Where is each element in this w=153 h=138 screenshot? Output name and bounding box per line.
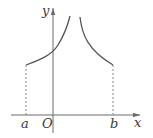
function-graph: y x O a b	[0, 0, 153, 138]
y-axis-label: y	[41, 3, 50, 18]
curve-right-branch	[80, 17, 113, 65]
x-axis-label: x	[134, 115, 142, 130]
a-label: a	[21, 116, 29, 131]
b-label: b	[110, 116, 118, 131]
origin-label: O	[42, 116, 53, 131]
curve-left-branch	[26, 16, 70, 65]
